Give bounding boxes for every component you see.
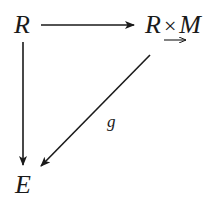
edge-label-g: g — [107, 113, 116, 130]
node-e: E — [15, 172, 31, 198]
times-operator: × — [164, 13, 176, 38]
node-r-times-m-right: M — [179, 10, 201, 39]
node-r-label: R — [14, 10, 30, 39]
node-r-times-m: R×M — [145, 12, 201, 38]
node-r: R — [14, 12, 30, 38]
arrow-diagonal-g — [41, 55, 150, 166]
node-r-times-m-left: R — [145, 10, 161, 39]
node-e-label: E — [15, 170, 31, 199]
commutative-diagram: R R×M g E — [0, 0, 218, 200]
